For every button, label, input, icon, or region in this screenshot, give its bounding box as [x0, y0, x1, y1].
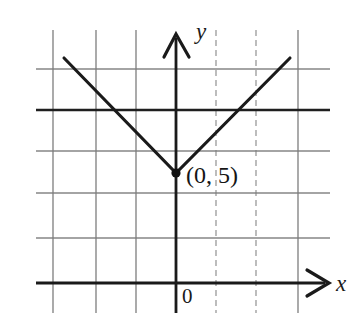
- vertex-point-marker: [171, 168, 180, 177]
- graph-figure: y x 0 (0, 5): [0, 0, 359, 320]
- grid-lines-horizontal: [36, 69, 330, 238]
- y-axis-label: y: [196, 20, 206, 43]
- vertex-coordinate-label: (0, 5): [186, 163, 238, 187]
- x-axis-label: x: [336, 272, 346, 295]
- origin-label: 0: [182, 286, 193, 307]
- coordinate-plane-svg: [0, 0, 359, 320]
